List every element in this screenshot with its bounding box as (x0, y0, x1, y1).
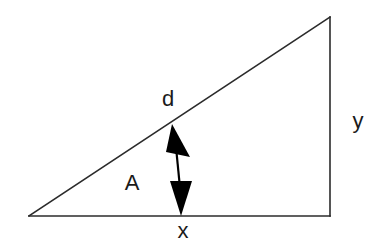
diagram-canvas: d A y x (0, 0, 380, 248)
label-horizontal-x: x (178, 218, 189, 243)
arrowhead-down-icon (170, 181, 192, 216)
label-angle-a: A (125, 170, 140, 195)
arrowhead-up-icon (166, 124, 190, 157)
triangle-diagram: d A y x (0, 0, 380, 248)
label-vertical-y: y (353, 108, 364, 133)
label-hypotenuse-d: d (162, 86, 174, 111)
